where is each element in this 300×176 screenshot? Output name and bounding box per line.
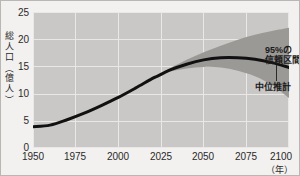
x-tick-label: 2050	[183, 151, 223, 162]
annotation-leader-line	[276, 65, 277, 81]
y-tick-label: 15	[3, 62, 29, 72]
y-tick-label: 5	[3, 116, 29, 126]
annotation-confidence-interval: 95%の 信頼区間	[265, 45, 300, 65]
x-tick-label: 2025	[141, 151, 181, 162]
y-tick-label: 10	[3, 89, 29, 99]
plot-area: 95%の 信頼区間 中位推計	[33, 12, 289, 148]
x-axis-unit-label: （年）	[257, 163, 300, 176]
x-tick-label: 1975	[55, 151, 95, 162]
x-tick-label: 2075	[226, 151, 266, 162]
y-tick-label: 20	[3, 35, 29, 45]
chart-figure: 総 人 口 （ 億 人 ） 25 20 15 10 5 0 95%の	[0, 0, 300, 176]
annotation-ci-line2: 信頼区間	[265, 55, 300, 65]
y-axis-title-char: 億	[3, 73, 15, 84]
annotation-ci-line1: 95%の	[265, 45, 300, 55]
x-tick-label: 1950	[13, 151, 53, 162]
y-axis-title-char: 口	[3, 52, 15, 63]
annotation-median-projection: 中位推計	[255, 82, 291, 92]
chart-data-layer	[33, 12, 289, 148]
y-tick-label: 25	[3, 8, 29, 18]
x-tick-label: 2100	[261, 151, 300, 162]
x-tick-label: 2000	[98, 151, 138, 162]
